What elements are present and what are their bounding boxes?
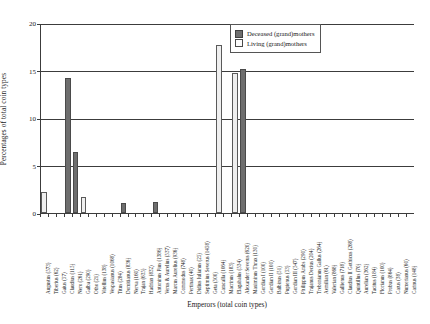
x-tick-mark	[263, 214, 264, 217]
x-tick-mark	[295, 214, 296, 217]
bar-group	[231, 73, 239, 213]
x-tick-label: Marcus Aurelius (936)	[173, 248, 178, 294]
x-tick-label: Pupienus (53)	[285, 266, 290, 294]
bar-group	[151, 202, 159, 213]
x-tick-label: Probus (864)	[388, 268, 393, 294]
x-tick-label: Quintillus (70)	[356, 264, 361, 294]
x-tick-mark	[406, 214, 407, 217]
legend-item-deceased: Deceased (grand)mothers	[235, 30, 315, 38]
x-tick-mark	[104, 214, 105, 217]
bar-living	[216, 45, 221, 213]
y-axis-title: Percentages of total coin types	[0, 24, 10, 214]
x-tick-label: Caracalla (1064)	[221, 260, 226, 294]
x-tick-mark	[342, 214, 343, 217]
x-tick-mark	[207, 214, 208, 217]
bar-deceased	[73, 152, 78, 213]
x-tick-mark	[303, 214, 304, 217]
x-tick-mark	[374, 214, 375, 217]
x-tick-label: Gallienus (718)	[340, 262, 345, 294]
x-tick-mark	[239, 214, 240, 217]
x-tick-mark	[366, 214, 367, 217]
x-tick-mark	[319, 214, 320, 217]
y-tick-label: 20	[29, 21, 36, 28]
x-tick-mark	[255, 214, 256, 217]
x-tick-label: Elagabalus (534)	[237, 259, 242, 294]
x-tick-label: Gordian II (100)	[269, 260, 274, 294]
x-tick-label: Trebonianus Gallus (264)	[317, 242, 322, 294]
x-tick-mark	[215, 214, 216, 217]
x-tick-label: Gaius (57)	[62, 272, 67, 294]
x-tick-label: Pertinax (40)	[189, 267, 194, 294]
x-tick-mark	[128, 214, 129, 217]
y-tick-label: 10	[29, 116, 36, 123]
bar-deceased	[240, 69, 245, 214]
x-tick-mark	[199, 214, 200, 217]
bar-living	[232, 73, 237, 213]
x-tick-label: Trajanus Decius (204)	[309, 249, 314, 294]
x-tick-mark	[64, 214, 65, 217]
legend-swatch-living	[235, 39, 243, 47]
x-tick-mark	[167, 214, 168, 217]
chart-legend: Deceased (grand)mothers Living (grand)mo…	[230, 24, 321, 53]
legend-swatch-deceased	[235, 30, 243, 38]
x-tick-mark	[271, 214, 272, 217]
x-axis-tick-labels: Augustus (573)Tiberius (62)Gaius (57)Cla…	[40, 218, 414, 296]
x-tick-mark	[80, 214, 81, 217]
x-axis-title: Emperors (total coin types)	[40, 300, 414, 309]
x-tick-mark	[183, 214, 184, 217]
x-tick-label: Didius Iulianus (25)	[197, 253, 202, 294]
x-tick-label: Balbinus (51)	[277, 266, 282, 294]
bar-living	[41, 192, 46, 213]
bar-group	[120, 203, 128, 213]
x-tick-label: Vespasianus (1068)	[110, 254, 115, 294]
x-tick-label: Galba (290)	[86, 270, 91, 294]
y-tick-label: 15	[29, 68, 36, 75]
x-tick-label: Gordian I (100)	[261, 262, 266, 294]
x-tick-label: Maximinus Thrax (130)	[253, 245, 258, 294]
x-tick-label: Titus (284)	[118, 271, 123, 294]
x-tick-mark	[398, 214, 399, 217]
x-tick-mark	[287, 214, 288, 217]
x-tick-label: Alexander Severus (620)	[245, 243, 250, 294]
x-tick-label: Claudius II Gothicus (268)	[348, 239, 353, 294]
x-tick-label: Claudius (115)	[70, 264, 75, 294]
x-tick-mark	[143, 214, 144, 217]
bar-group	[72, 152, 80, 213]
x-tick-mark	[48, 214, 49, 217]
x-tick-mark	[311, 214, 312, 217]
x-tick-label: Septimius Severus (1458)	[205, 241, 210, 294]
x-tick-label: Aurelian (362)	[364, 264, 369, 294]
x-tick-mark	[96, 214, 97, 217]
x-tick-mark	[56, 214, 57, 217]
x-tick-label: Carinus (148)	[412, 266, 417, 294]
x-tick-mark	[382, 214, 383, 217]
x-tick-label: Antoninus Pius (1386)	[157, 248, 162, 294]
x-tick-label: Gordian III (547)	[293, 259, 298, 294]
x-tick-mark	[151, 214, 152, 217]
chart-figure: Percentages of total coin types 05101520…	[0, 0, 430, 324]
x-tick-mark	[247, 214, 248, 217]
x-tick-label: Numerianus (60)	[404, 259, 409, 294]
y-tick-label: 5	[33, 163, 37, 170]
x-tick-label: Otho (21)	[94, 274, 99, 294]
x-tick-label: Vitellius (138)	[102, 264, 107, 294]
x-tick-mark	[72, 214, 73, 217]
legend-label-deceased: Deceased (grand)mothers	[247, 30, 315, 37]
x-tick-label: Valerian (868)	[332, 265, 337, 294]
bar-deceased	[153, 202, 158, 213]
x-tick-label: Domitianus (836)	[126, 258, 131, 294]
x-tick-label: Augustus (573)	[46, 262, 51, 294]
x-tick-mark	[350, 214, 351, 217]
x-tick-label: Nerva (160)	[134, 269, 139, 294]
bar-living	[81, 197, 86, 213]
x-tick-label: Tacitus (184)	[372, 267, 377, 294]
x-tick-mark	[334, 214, 335, 217]
x-tick-label: Nero (261)	[78, 272, 83, 295]
x-tick-label: Carus (38)	[396, 272, 401, 294]
x-tick-label: Commodus (748)	[181, 258, 186, 294]
bar-group	[215, 45, 223, 213]
x-tick-mark	[88, 214, 89, 217]
bar-series-layer	[40, 24, 414, 214]
x-tick-mark	[175, 214, 176, 217]
x-tick-mark	[223, 214, 224, 217]
